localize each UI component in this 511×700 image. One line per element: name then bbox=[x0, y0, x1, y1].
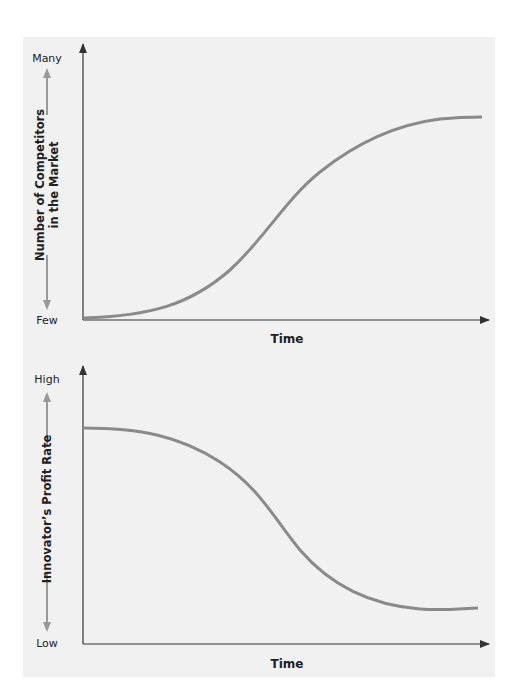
competitors-curve bbox=[83, 117, 482, 318]
profit-rate-curve bbox=[83, 428, 478, 610]
y-axis-title-line2: in the Market bbox=[47, 141, 61, 229]
y-top-label: Many bbox=[32, 52, 62, 65]
x-axis-title: Time bbox=[271, 332, 304, 346]
chart-profit-rate: High Low Innovator’s Profit Rate Time bbox=[34, 366, 489, 671]
down-arrowhead-icon bbox=[43, 300, 51, 310]
y-bottom-label: Low bbox=[36, 637, 58, 650]
up-arrowhead-icon bbox=[43, 392, 51, 402]
y-axis-title: Innovator’s Profit Rate bbox=[40, 435, 54, 584]
down-arrowhead-icon bbox=[43, 622, 51, 632]
up-arrowhead-icon bbox=[43, 68, 51, 78]
y-top-label: High bbox=[34, 373, 59, 386]
y-axis-title-line1: Number of Competitors bbox=[33, 109, 47, 261]
chart-competitors: Many Few Number of Competitors in the Ma… bbox=[32, 44, 489, 346]
figure: Many Few Number of Competitors in the Ma… bbox=[0, 0, 511, 700]
y-bottom-label: Few bbox=[36, 314, 58, 327]
x-axis-title: Time bbox=[271, 657, 304, 671]
